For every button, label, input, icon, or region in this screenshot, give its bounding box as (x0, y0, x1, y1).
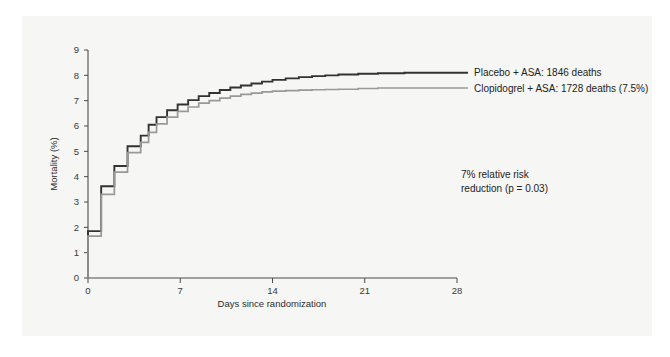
y-axis-title: Mortality (%) (48, 137, 59, 190)
x-tick-label-21: 21 (359, 285, 370, 296)
y-tick-label-6: 6 (74, 120, 79, 131)
legend-label-clopidogrel: Clopidogrel + ASA: 1728 deaths (7.5%) (474, 83, 648, 94)
x-tick-label-0: 0 (85, 285, 90, 296)
y-tick-label-0: 0 (74, 272, 79, 283)
relative-risk-annotation: 7% relative risk reduction (p = 0.03) (461, 169, 548, 194)
x-axis-title: Days since randomization (218, 298, 327, 309)
x-tick-label-7: 7 (178, 285, 183, 296)
series-line-placebo (88, 73, 468, 278)
annotation-line-1: 7% relative risk (461, 169, 530, 180)
y-tick-label-9: 9 (74, 44, 79, 55)
annotation-line-2: reduction (p = 0.03) (461, 183, 548, 194)
y-tick-label-8: 8 (74, 70, 79, 81)
x-tick-label-14: 14 (267, 285, 278, 296)
y-tick-label-2: 2 (74, 222, 79, 233)
y-tick-label-3: 3 (74, 196, 79, 207)
y-tick-label-7: 7 (74, 95, 79, 106)
series-line-clopidogrel (88, 88, 468, 278)
y-axis-ticks: 0123456789 (74, 44, 88, 283)
x-tick-label-28: 28 (452, 285, 463, 296)
figure-root: 0123456789 07142128 Mortality (%) Days s… (0, 0, 670, 357)
mortality-survival-chart: 0123456789 07142128 Mortality (%) Days s… (0, 0, 670, 357)
x-axis-ticks: 07142128 (85, 278, 462, 296)
chart-legend: Placebo + ASA: 1846 deathsClopidogrel + … (474, 67, 648, 93)
y-tick-label-4: 4 (74, 171, 79, 182)
legend-label-placebo: Placebo + ASA: 1846 deaths (474, 67, 602, 78)
series-layer (88, 73, 468, 278)
chart-axes (88, 50, 457, 278)
y-tick-label-5: 5 (74, 146, 79, 157)
y-tick-label-1: 1 (74, 247, 79, 258)
